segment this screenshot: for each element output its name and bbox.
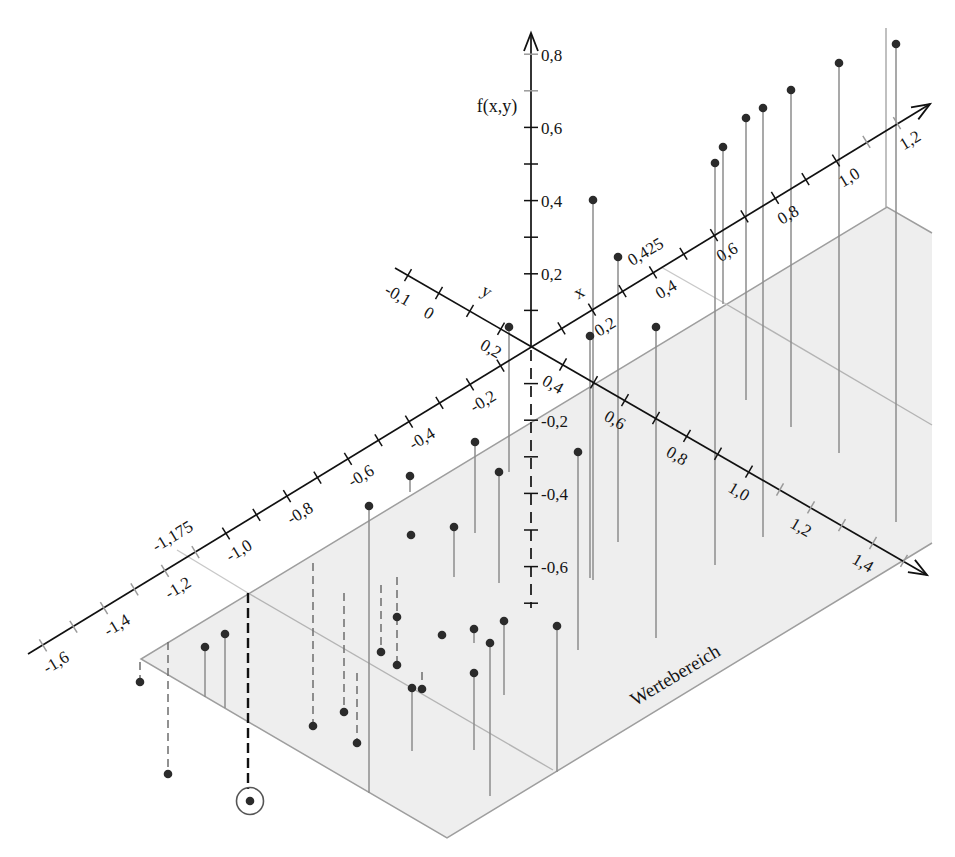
- data-point: [309, 722, 318, 731]
- 3d-stem-plot: -1,6-1,4-1,2-1,0-0,8-0,6-0,4-0,20,20,40,…: [0, 0, 955, 857]
- data-point: [614, 253, 623, 262]
- data-point: [742, 114, 751, 123]
- f-axis-tick-label: -0,4: [541, 485, 568, 504]
- f-axis-title: f(x,y): [477, 96, 517, 117]
- data-point: [711, 159, 720, 168]
- data-point: [393, 613, 402, 622]
- data-point: [471, 438, 480, 447]
- f-axis-tick-label: 0,2: [541, 265, 562, 284]
- data-point: [393, 661, 402, 670]
- data-point: [470, 669, 479, 678]
- data-point: [164, 770, 173, 779]
- data-point: [246, 797, 255, 806]
- f-axis-tick-label: 0,4: [541, 192, 563, 211]
- data-point: [365, 502, 374, 511]
- data-point: [500, 617, 509, 626]
- data-point: [787, 86, 796, 95]
- f-axis-tick-label: -0,6: [541, 558, 568, 577]
- data-point: [589, 196, 598, 205]
- f-axis-tick-label: 0,8: [541, 46, 562, 65]
- data-point: [406, 472, 415, 481]
- data-point: [418, 685, 427, 694]
- data-point: [438, 631, 447, 640]
- data-point: [719, 143, 728, 152]
- data-point: [495, 468, 504, 477]
- data-point: [505, 323, 514, 332]
- data-point: [586, 332, 595, 341]
- data-point: [892, 40, 901, 49]
- data-point: [470, 625, 479, 634]
- function-plot-figure: -1,6-1,4-1,2-1,0-0,8-0,6-0,4-0,20,20,40,…: [0, 0, 955, 857]
- data-point: [407, 531, 416, 540]
- f-axis-tick-label: -0,2: [541, 412, 568, 431]
- data-point: [201, 643, 210, 652]
- data-point: [353, 739, 362, 748]
- data-point: [553, 622, 562, 631]
- data-point: [835, 59, 844, 68]
- data-point: [221, 630, 230, 639]
- data-point: [377, 648, 386, 657]
- data-point: [486, 639, 495, 648]
- data-point: [136, 678, 145, 687]
- data-point: [759, 104, 768, 113]
- f-axis-tick-label: 0,6: [541, 119, 562, 138]
- data-point: [408, 684, 417, 693]
- data-point: [574, 448, 583, 457]
- data-point: [652, 323, 661, 332]
- data-point: [340, 708, 349, 717]
- data-point: [450, 523, 459, 532]
